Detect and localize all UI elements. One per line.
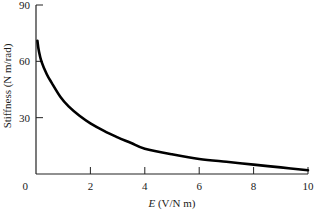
x-tick-label: 2 xyxy=(88,180,94,192)
y-axis-label: Stiffness (N m/rad) xyxy=(1,43,14,128)
x-axis-label: E (V/N m) xyxy=(147,197,195,210)
axes xyxy=(36,5,308,174)
x-ticks: 246810 xyxy=(88,167,314,192)
x-tick-label: 4 xyxy=(142,180,148,192)
y-tick-label: 60 xyxy=(19,55,31,67)
y-tick-label: 0 xyxy=(23,180,29,192)
stiffness-chart: 0306090 246810 E (V/N m) Stiffness (N m/… xyxy=(0,0,314,214)
stiffness-curve xyxy=(37,41,308,171)
x-tick-label: 6 xyxy=(196,180,202,192)
y-ticks: 0306090 xyxy=(19,0,43,192)
x-tick-label: 10 xyxy=(303,180,315,192)
y-tick-label: 90 xyxy=(19,0,31,11)
y-tick-label: 30 xyxy=(19,112,31,124)
x-tick-label: 8 xyxy=(251,180,257,192)
